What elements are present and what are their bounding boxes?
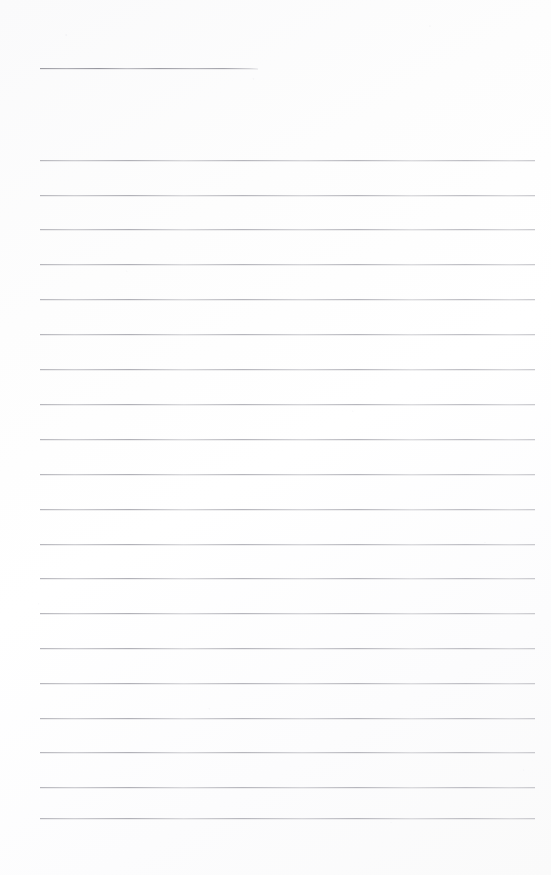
ruled-line: [40, 648, 535, 649]
paper-background: [0, 0, 551, 875]
scanned-page: [0, 0, 551, 875]
ruled-line: [40, 787, 535, 788]
ruled-line: [40, 404, 535, 405]
ruled-line: [40, 160, 535, 161]
ruled-line: [40, 264, 535, 265]
ruled-line: [40, 334, 535, 335]
header-rule-line: [40, 68, 258, 69]
ruled-line: [40, 229, 535, 230]
scan-noise-overlay: [0, 0, 551, 875]
ruled-line: [40, 683, 535, 684]
ruled-line: [40, 544, 535, 545]
ruled-line: [40, 299, 535, 300]
ruled-line: [40, 474, 535, 475]
ruled-line: [40, 718, 535, 719]
ruled-line: [40, 195, 535, 196]
ruled-line: [40, 752, 535, 753]
ruled-line: [40, 613, 535, 614]
ruled-line: [40, 439, 535, 440]
ruled-line: [40, 818, 535, 819]
ruled-line: [40, 369, 535, 370]
ruled-line: [40, 509, 535, 510]
ruled-line: [40, 578, 535, 579]
